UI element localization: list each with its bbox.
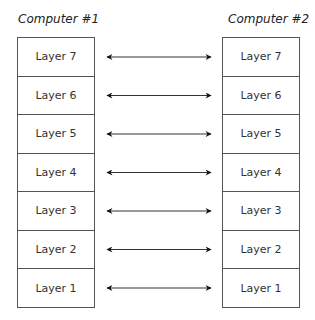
bidirectional-arrows (0, 0, 315, 320)
